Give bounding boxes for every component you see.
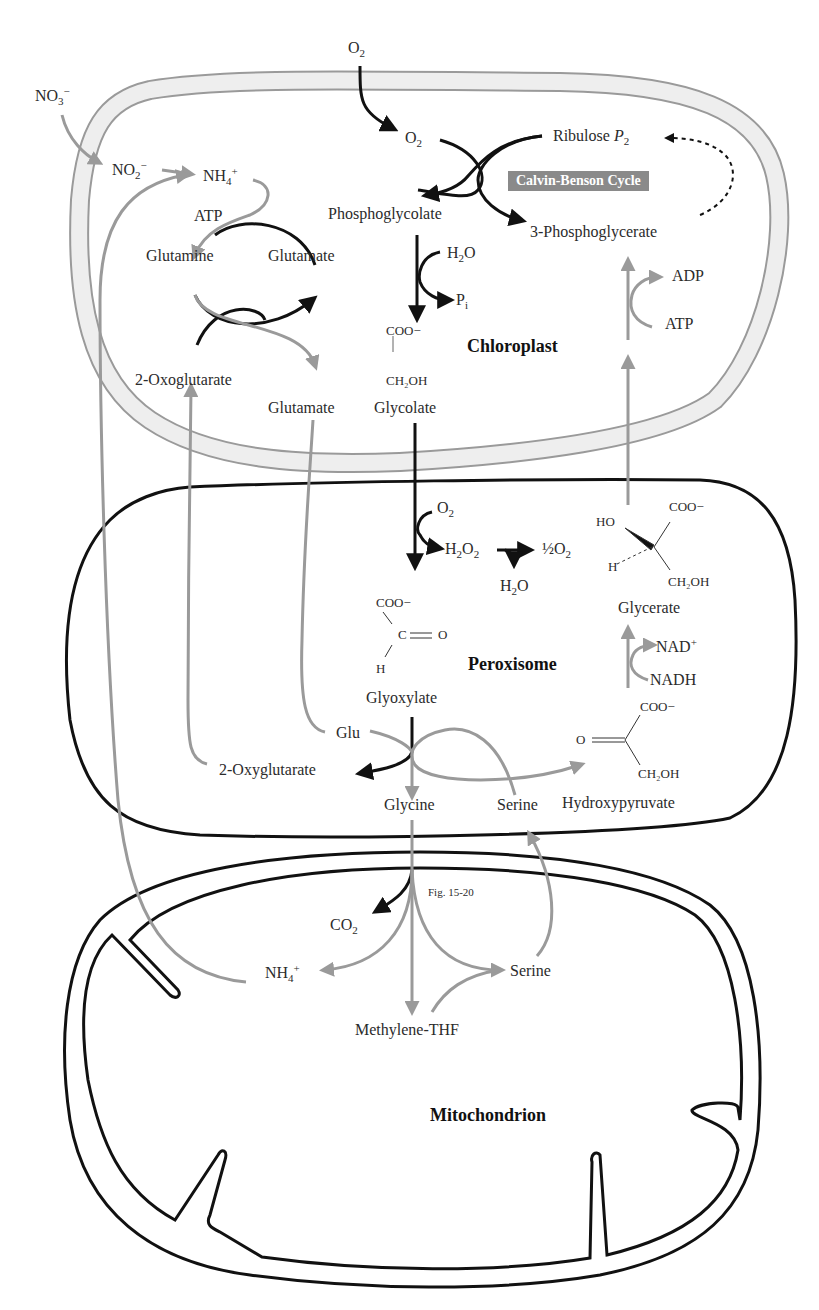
h2o2-to-h2o-arrow	[505, 550, 514, 562]
co2-label: CO2	[330, 917, 358, 936]
glyoxylate-coo-label: COO−	[376, 596, 411, 609]
2-oxyglutarate-label: 2-Oxyglutarate	[219, 762, 316, 778]
serine-to-hydroxypyruvate-arrow	[412, 729, 580, 795]
no2-label: NO2−	[112, 160, 147, 181]
atp-adp-side-arrow	[631, 277, 658, 327]
calvin-dashed-arrow	[668, 138, 733, 215]
glutamine-label: Glutamine	[146, 248, 214, 264]
nadh-nad-side-arrow	[631, 645, 652, 680]
phosphoglycolate-label: Phosphoglycolate	[328, 206, 442, 222]
nh4-return-line	[100, 175, 246, 982]
atp-chloroplast-label: ATP	[194, 208, 222, 224]
hydroxypyruvate-structure	[592, 715, 640, 765]
glycerate-label: Glycerate	[618, 600, 680, 616]
adp-label: ADP	[672, 268, 704, 284]
glycerate-h-label: H	[608, 560, 617, 573]
o2-peroxisome-label: O2	[437, 500, 454, 519]
glycolate-coo-label: COO−	[386, 324, 421, 337]
glycerate-coo-label: COO−	[669, 500, 704, 513]
glyoxylate-structure	[383, 612, 432, 657]
methylene-thf-label: Methylene-THF	[355, 1022, 459, 1038]
h2o-pi-side-arrow	[419, 252, 448, 300]
o2-top-label: O2	[348, 40, 365, 59]
serine-mitochondrion-label: Serine	[510, 963, 551, 979]
h2o-peroxisome-label: H2O	[500, 578, 529, 597]
glutamate-label-2: Glutamate	[268, 400, 335, 416]
hydroxypyruvate-o-label: O	[576, 733, 585, 746]
h2o-chloroplast-label: H2O	[447, 245, 476, 264]
glycolate-label: Glycolate	[374, 400, 436, 416]
glutamine-to-glutamate-gray-arc	[195, 295, 315, 365]
h2o2-label: H2O2	[445, 541, 479, 560]
glu-in-arrow	[370, 731, 412, 752]
to-serine-arrow	[412, 870, 500, 970]
calvin-benson-cycle-badge: Calvin-Benson Cycle	[508, 171, 649, 191]
glycerate-structure	[615, 522, 670, 570]
serine-peroxisome-label: Serine	[497, 797, 538, 813]
hydroxypyruvate-coo-label: COO−	[640, 700, 675, 713]
no2-to-nh4-arrow	[162, 170, 190, 174]
nadh-label: NADH	[650, 672, 696, 688]
o2-chloroplast-label: O2	[405, 130, 422, 149]
o2-h2o2-side-arrow	[418, 512, 438, 548]
photorespiration-diagram	[0, 0, 819, 1310]
2-oxoglutarate-label: 2-Oxoglutarate	[135, 372, 232, 388]
figure-caption: Fig. 15-20	[428, 887, 474, 898]
serine-export-arrow	[530, 835, 552, 956]
atp-right-label: ATP	[665, 316, 693, 332]
ribulose-p2-label: Ribulose P2	[553, 128, 629, 147]
glyoxylate-o-label: O	[438, 628, 447, 641]
to-oxyglutarate-arrow	[362, 752, 412, 773]
glycerate-ch2oh-label: CH₂OH	[668, 575, 709, 588]
chloroplast-title: Chloroplast	[467, 337, 558, 355]
peroxisome-membrane	[66, 479, 796, 836]
peroxisome-title: Peroxisome	[468, 655, 557, 673]
glycine-label: Glycine	[384, 797, 435, 813]
pi-label: Pi	[456, 292, 468, 311]
hydroxypyruvate-label: Hydroxypyruvate	[562, 795, 675, 811]
half-o2-label: ½O2	[542, 541, 571, 560]
glutamate-label-1: Glutamate	[268, 248, 335, 264]
hydroxypyruvate-ch2oh-label: CH₂OH	[638, 767, 679, 780]
nad-label: NAD+	[656, 637, 697, 655]
glyoxylate-label: Glyoxylate	[366, 690, 437, 706]
glyoxylate-h-label: H	[376, 662, 385, 675]
thf-to-serine-arrow	[432, 970, 500, 1012]
nh4-chloroplast-label: NH4+	[203, 166, 238, 187]
nh4-mitochondrion-label: NH4+	[265, 963, 300, 984]
glycerate-ho-label: HO	[596, 515, 615, 528]
glyoxylate-c-label: C	[398, 628, 407, 641]
glycolate-ch2oh-label: CH₂OH	[386, 374, 427, 387]
no3-label: NO3−	[35, 86, 70, 107]
mitochondrion-title: Mitochondrion	[430, 1106, 546, 1124]
3-phosphoglycerate-label: 3-Phosphoglycerate	[530, 224, 657, 240]
glu-label: Glu	[336, 725, 360, 741]
